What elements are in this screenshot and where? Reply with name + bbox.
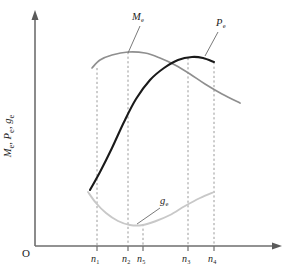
- y-axis-title: Me, Pe, ge: [2, 88, 16, 184]
- leader-line-Pe: [205, 32, 218, 56]
- curve-label-Me: Me: [132, 12, 144, 23]
- curve-label-ge: ge: [160, 196, 168, 207]
- origin-label: O: [22, 248, 30, 259]
- dashed-guide-group: [97, 52, 214, 246]
- figure-container: Me, Pe, ge O MePege n1n2n5n3n4: [0, 0, 292, 274]
- curve-label-Pe: Pe: [216, 18, 226, 29]
- tick-label-n1: n1: [91, 254, 99, 264]
- chart-canvas: [0, 0, 292, 274]
- tick-label-n2: n2: [122, 254, 130, 264]
- tick-label-n4: n4: [208, 254, 216, 264]
- leader-line-Me: [128, 26, 140, 53]
- curve-Me: [92, 52, 240, 103]
- tick-label-n5: n5: [137, 254, 145, 264]
- x-axis-arrow-icon: [272, 243, 282, 250]
- y-axis-arrow-icon: [32, 10, 39, 20]
- curve-ge: [88, 192, 214, 226]
- tick-label-n3: n3: [182, 254, 190, 264]
- leader-line-group: [128, 26, 218, 224]
